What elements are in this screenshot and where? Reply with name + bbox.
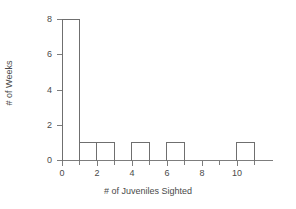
x-tick-mark-7: [184, 161, 185, 165]
x-tick-label-0: 0: [52, 169, 72, 178]
x-tick-mark-4: [132, 161, 133, 166]
plot-area: 0 2 4 6 8 0 2 4 6 8 10: [0, 0, 296, 209]
histogram-bar: [79, 142, 97, 161]
y-tick-label-4: 4: [38, 86, 52, 95]
x-tick-mark-10: [237, 161, 238, 166]
y-tick-label-2: 2: [38, 121, 52, 130]
x-axis-title: # of Juveniles Sighted: [0, 186, 296, 196]
x-tick-label-8: 8: [192, 169, 212, 178]
y-tick-label-6: 6: [38, 50, 52, 59]
y-axis-title: # of Weeks: [4, 43, 14, 123]
x-tick-mark-9: [219, 161, 220, 165]
x-tick-mark-1: [79, 161, 80, 165]
y-tick-label-0: 0: [38, 156, 52, 165]
y-tick-label-8: 8: [38, 15, 52, 24]
histogram-bar: [96, 142, 115, 161]
x-tick-label-10: 10: [227, 169, 247, 178]
x-tick-mark-8: [202, 161, 203, 166]
x-tick-mark-6: [167, 161, 168, 166]
histogram-bar: [131, 142, 150, 161]
x-tick-mark-5: [149, 161, 150, 165]
x-tick-mark-2: [97, 161, 98, 166]
x-tick-mark-11: [254, 161, 255, 165]
x-tick-label-2: 2: [87, 169, 107, 178]
x-tick-label-4: 4: [122, 169, 142, 178]
x-tick-mark-3: [114, 161, 115, 165]
x-tick-mark-0: [62, 161, 63, 166]
histogram-bar: [166, 142, 185, 161]
histogram-chart: 0 2 4 6 8 0 2 4 6 8 10: [0, 0, 296, 209]
histogram-bar: [62, 19, 80, 161]
histogram-bar: [236, 142, 255, 161]
x-tick-label-6: 6: [157, 169, 177, 178]
